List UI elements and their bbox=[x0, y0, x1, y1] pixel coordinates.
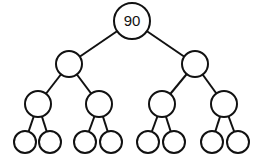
node-label: 90 bbox=[124, 12, 141, 29]
node-circle bbox=[100, 131, 122, 153]
node-circle bbox=[163, 131, 185, 153]
node-circle bbox=[74, 131, 96, 153]
node-circle bbox=[137, 131, 159, 153]
tree-node bbox=[86, 91, 112, 117]
node-circle bbox=[25, 91, 51, 117]
node-circle bbox=[56, 51, 82, 77]
tree-node bbox=[211, 91, 237, 117]
tree-node bbox=[163, 131, 185, 153]
tree-node bbox=[74, 131, 96, 153]
node-circle bbox=[182, 51, 208, 77]
node-circle bbox=[86, 91, 112, 117]
tree-node bbox=[137, 131, 159, 153]
node-circle bbox=[211, 91, 237, 117]
tree-node bbox=[25, 91, 51, 117]
binary-tree-diagram: 90 bbox=[0, 0, 259, 168]
node-circle bbox=[149, 91, 175, 117]
tree-node bbox=[182, 51, 208, 77]
tree-node bbox=[201, 131, 223, 153]
tree-node bbox=[149, 91, 175, 117]
node-circle bbox=[39, 131, 61, 153]
tree-node bbox=[227, 131, 249, 153]
node-circle bbox=[201, 131, 223, 153]
tree-node bbox=[100, 131, 122, 153]
tree-node bbox=[14, 131, 36, 153]
root-node: 90 bbox=[114, 3, 150, 39]
tree-node bbox=[39, 131, 61, 153]
tree-nodes: 90 bbox=[14, 3, 249, 153]
node-circle bbox=[227, 131, 249, 153]
tree-node bbox=[56, 51, 82, 77]
node-circle bbox=[14, 131, 36, 153]
